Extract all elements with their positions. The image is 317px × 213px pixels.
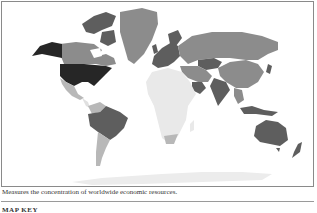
region-new-zealand xyxy=(292,142,302,158)
region-usa xyxy=(60,64,112,86)
region-australia xyxy=(254,120,288,146)
region-scandinavia xyxy=(168,30,182,46)
region-antarctica xyxy=(72,172,272,185)
region-madagascar xyxy=(190,120,194,132)
region-indonesia xyxy=(240,106,278,116)
world-map xyxy=(1,1,314,187)
world-map-svg xyxy=(2,2,313,186)
divider xyxy=(1,201,314,202)
region-canadian-arctic-2 xyxy=(100,30,116,46)
region-africa xyxy=(146,68,196,144)
map-key-title: MAP KEY xyxy=(2,206,38,213)
region-russia xyxy=(178,32,278,64)
map-caption: Measures the concentration of worldwide … xyxy=(2,188,177,196)
region-tasmania xyxy=(276,148,280,152)
region-uk xyxy=(152,44,158,54)
region-alaska xyxy=(32,42,62,58)
region-greenland xyxy=(120,8,158,64)
region-japan xyxy=(266,64,272,74)
region-se-asia xyxy=(234,88,244,104)
